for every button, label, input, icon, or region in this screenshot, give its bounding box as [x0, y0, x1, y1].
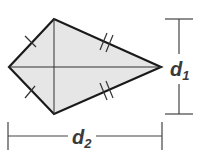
d1-label: d1: [170, 58, 189, 83]
kite-diagram: d1 d2: [0, 0, 202, 161]
d2-label: d2: [72, 126, 92, 151]
